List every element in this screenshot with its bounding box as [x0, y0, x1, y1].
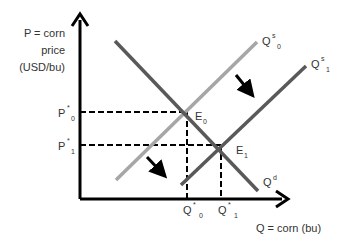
price-label-p1: P * 1	[58, 137, 75, 155]
svg-text:1: 1	[234, 212, 238, 219]
svg-text:0: 0	[71, 115, 75, 122]
price-label-p0: P * 0	[58, 104, 75, 122]
svg-text:Q: Q	[183, 204, 192, 216]
svg-text:P: P	[58, 107, 65, 119]
x-axis-label: Q = corn (bu)	[256, 222, 321, 234]
svg-text:0: 0	[277, 43, 281, 50]
svg-text:*: *	[228, 201, 231, 208]
svg-text:Q: Q	[263, 176, 272, 188]
supply-shift-arrow-lower-icon	[147, 157, 161, 172]
svg-text:s: s	[321, 55, 325, 62]
equilibrium-e1-label: E 1	[236, 144, 248, 159]
svg-text:P: P	[58, 140, 65, 152]
svg-text:Q: Q	[311, 58, 320, 70]
svg-text:d: d	[273, 174, 277, 181]
svg-text:E: E	[195, 110, 202, 122]
y-axis-label-line-1: P = corn	[24, 27, 65, 39]
supply-0-label: Q s 0	[262, 32, 281, 50]
supply-demand-diagram: P = corn price (USD/bu) P * 0 P * 1 Q * …	[0, 0, 342, 234]
supply-1-label: Q s 1	[311, 55, 330, 73]
svg-text:1: 1	[326, 66, 330, 73]
svg-text:*: *	[67, 104, 70, 111]
svg-text:*: *	[67, 137, 70, 144]
svg-text:E: E	[236, 144, 243, 156]
equilibrium-e0-label: E 0	[195, 110, 207, 125]
supply-shift-arrow-upper-icon	[236, 75, 249, 91]
svg-text:Q: Q	[218, 204, 227, 216]
demand-label: Q d	[263, 174, 277, 188]
svg-text:*: *	[193, 201, 196, 208]
svg-text:0: 0	[199, 212, 203, 219]
svg-text:0: 0	[203, 118, 207, 125]
svg-text:1: 1	[244, 152, 248, 159]
quantity-label-q1: Q * 1	[218, 201, 238, 219]
y-axis-label-line-2: price	[41, 44, 65, 56]
svg-text:s: s	[272, 32, 276, 39]
svg-text:1: 1	[71, 148, 75, 155]
quantity-label-q0: Q * 0	[183, 201, 203, 219]
y-axis-label-line-3: (USD/bu)	[19, 61, 65, 73]
svg-text:Q: Q	[262, 35, 271, 47]
